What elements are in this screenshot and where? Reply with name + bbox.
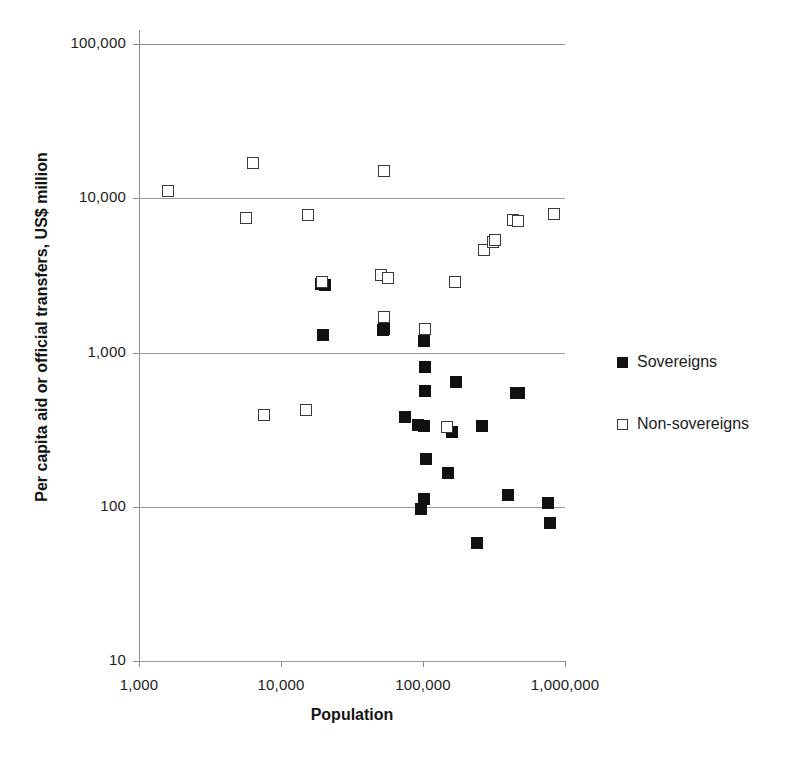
data-point-non-sovereigns xyxy=(316,276,328,288)
filled-square-icon xyxy=(617,357,628,368)
data-point-non-sovereigns xyxy=(240,212,252,224)
legend-item-sovereigns: Sovereigns xyxy=(617,352,797,372)
data-point-sovereigns xyxy=(317,329,329,341)
data-point-non-sovereigns xyxy=(300,404,312,416)
data-point-sovereigns xyxy=(399,411,411,423)
data-point-non-sovereigns xyxy=(512,215,524,227)
plot-area xyxy=(139,44,565,661)
data-point-non-sovereigns xyxy=(419,323,431,335)
x-tick-label: 100,000 xyxy=(363,676,483,693)
data-point-sovereigns xyxy=(419,385,431,397)
x-tick-label: 1,000 xyxy=(79,676,199,693)
data-point-sovereigns xyxy=(476,420,488,432)
x-tick-mark xyxy=(281,661,282,667)
gridline-10 xyxy=(139,661,565,662)
data-point-non-sovereigns xyxy=(489,234,501,246)
legend-label-non-sovereigns: Non-sovereigns xyxy=(637,415,749,433)
y-tick-label: 10 xyxy=(8,651,126,668)
data-point-sovereigns xyxy=(442,467,454,479)
x-tick-mark xyxy=(139,661,140,667)
x-tick-mark xyxy=(423,661,424,667)
data-point-non-sovereigns xyxy=(302,209,314,221)
scatter-chart-figure: 101001,00010,000100,000 1,00010,000100,0… xyxy=(0,0,802,758)
y-tick-label: 100,000 xyxy=(8,34,126,51)
legend-item-non-sovereigns: Non-sovereigns xyxy=(617,414,797,434)
x-tick-mark xyxy=(565,661,566,667)
data-point-non-sovereigns xyxy=(378,311,390,323)
data-point-non-sovereigns xyxy=(449,276,461,288)
x-tick-label: 10,000 xyxy=(221,676,341,693)
data-point-non-sovereigns xyxy=(247,157,259,169)
data-point-sovereigns xyxy=(419,361,431,373)
data-point-sovereigns xyxy=(418,335,430,347)
legend-label-sovereigns: Sovereigns xyxy=(637,353,717,371)
data-point-sovereigns xyxy=(502,489,514,501)
open-square-icon xyxy=(617,419,628,430)
data-point-sovereigns xyxy=(513,387,525,399)
y-tick-label: 10,000 xyxy=(8,188,126,205)
x-axis-title: Population xyxy=(139,706,565,724)
data-point-non-sovereigns xyxy=(378,165,390,177)
data-point-sovereigns xyxy=(471,537,483,549)
data-point-sovereigns xyxy=(450,376,462,388)
data-point-non-sovereigns xyxy=(441,421,453,433)
data-point-non-sovereigns xyxy=(258,409,270,421)
y-tick-label: 1,000 xyxy=(8,343,126,360)
data-point-sovereigns xyxy=(544,517,556,529)
data-point-non-sovereigns xyxy=(162,185,174,197)
y-tick-label: 100 xyxy=(8,497,126,514)
data-point-sovereigns xyxy=(420,453,432,465)
data-point-sovereigns xyxy=(418,420,430,432)
x-tick-label: 1,000,000 xyxy=(505,676,625,693)
y-axis-title: Per capita aid or official transfers, US… xyxy=(33,117,51,537)
data-point-non-sovereigns xyxy=(548,208,560,220)
data-point-non-sovereigns xyxy=(382,272,394,284)
chart-legend: Sovereigns Non-sovereigns xyxy=(617,352,797,476)
data-point-sovereigns xyxy=(415,503,427,515)
data-point-sovereigns xyxy=(542,497,554,509)
data-point-sovereigns xyxy=(378,323,390,335)
